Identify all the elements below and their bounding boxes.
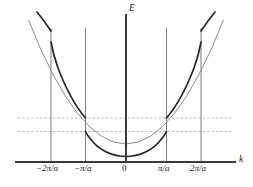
x-tick-label-zero: 0 (122, 163, 127, 173)
band-structure-figure: −2π/a −π/a 0 π/a 2π/a E k (0, 0, 253, 187)
x-tick-label-minus-pi-over-a: −π/a (74, 163, 92, 173)
x-axis-title: k (239, 154, 243, 164)
x-tick-label-minus-2pi-over-a: −2π/a (36, 163, 58, 173)
x-tick-label-pi-over-a: π/a (158, 163, 170, 173)
band-segment-third-right (201, 12, 215, 31)
band-segment-third-left (37, 12, 51, 31)
x-tick-label-2pi-over-a: 2π/a (190, 163, 206, 173)
axes (15, 14, 236, 162)
y-axis-title: E (129, 3, 135, 13)
plot-canvas (0, 0, 253, 187)
